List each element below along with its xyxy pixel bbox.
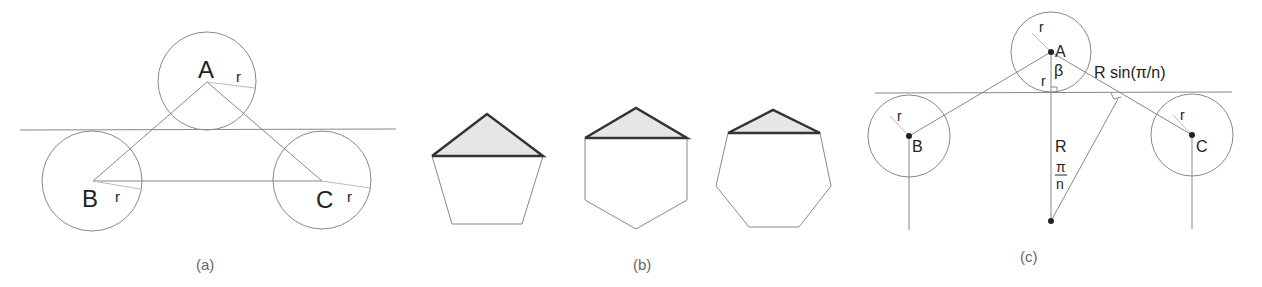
right-angle-mark-2 [1111,93,1121,99]
panel-a: A r B r C r (a) [20,32,396,273]
label-r-c-c: r [1180,107,1185,123]
caption-c: (c) [1020,248,1038,265]
heptagon-body [716,133,831,227]
hexagon-body [585,138,687,229]
label-b: B [82,185,98,212]
label-R: R [1055,138,1067,155]
point-center [1048,218,1054,224]
pentagon-body [432,156,543,224]
heptagon-cap-fill [728,110,820,133]
label-c-c: C [1196,138,1208,155]
label-r-a2-c: r [1041,73,1046,89]
label-n: n [1056,176,1064,192]
pentagon-cap-fill [432,114,543,156]
label-r-b: r [115,188,120,205]
caption-a: (a) [196,256,214,273]
label-r-a-c: r [1039,19,1044,35]
hexagon-cap-fill [585,108,687,138]
panel-b: (b) [432,108,831,273]
label-r-b-c: r [897,108,902,124]
label-a: A [198,56,214,83]
triangle-abc [93,82,322,181]
label-a-c: A [1055,43,1066,60]
label-c: C [316,186,333,213]
label-side-length: R sin(π/n) [1094,64,1166,81]
circle-c [273,131,371,229]
label-r-a: r [236,68,241,85]
figure-canvas: A r B r C r (a) (b) [0,0,1262,287]
segment-ab [909,52,1051,136]
radius-a-c [1032,33,1051,52]
label-pi: π [1056,159,1066,175]
panel-c: A r β r R sin(π/n) r B r C R π n (c) [868,12,1233,265]
label-r-c: r [347,188,352,205]
caption-b: (b) [633,256,651,273]
point-c [1189,132,1195,138]
point-a [1048,49,1054,55]
label-b-c: B [912,138,923,155]
radius-a [207,82,255,88]
label-beta: β [1054,62,1063,79]
